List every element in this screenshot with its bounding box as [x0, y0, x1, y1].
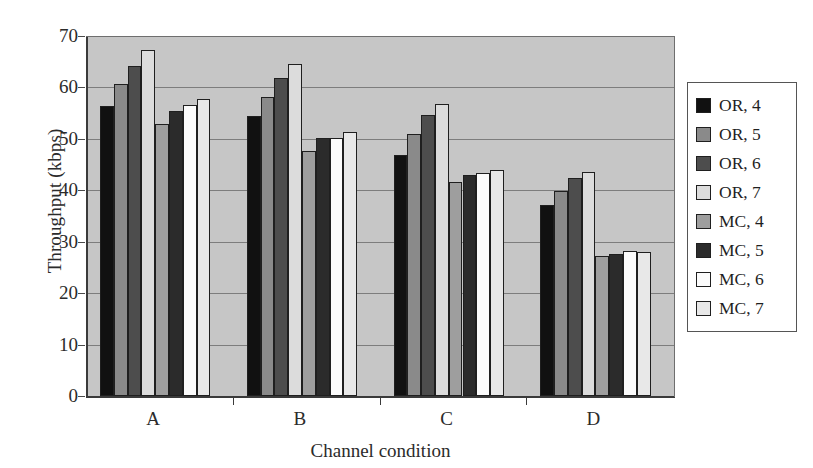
bar-chart-figure: Throughput (kbps) 010203040506070 ABCD C…: [0, 0, 813, 468]
x-tick-mark: [233, 397, 234, 405]
y-tick-mark: [78, 87, 85, 88]
bar: [540, 205, 554, 396]
bar: [449, 182, 463, 396]
legend-label: OR, 5: [719, 124, 761, 145]
bar: [609, 254, 623, 396]
legend-swatch-icon: [696, 127, 711, 142]
bar: [316, 138, 330, 396]
legend-item: OR, 6: [696, 149, 790, 178]
legend-item: MC, 4: [696, 207, 790, 236]
bar: [421, 115, 435, 396]
bar: [100, 106, 114, 396]
bar: [114, 84, 128, 396]
bar: [582, 172, 596, 396]
y-tick-label: 10: [36, 334, 78, 356]
x-group-label-d: D: [563, 408, 623, 430]
y-tick-mark: [78, 139, 85, 140]
bar: [128, 66, 142, 396]
x-tick-mark: [380, 397, 381, 405]
legend-label: MC, 4: [719, 211, 764, 232]
gridline: [88, 87, 675, 88]
y-tick-label: 40: [36, 179, 78, 201]
bar: [330, 138, 344, 396]
legend-swatch-icon: [696, 301, 711, 316]
legend-swatch-icon: [696, 98, 711, 113]
x-axis-title: Channel condition: [86, 440, 675, 462]
bar: [463, 175, 477, 396]
bar: [169, 111, 183, 396]
legend-label: OR, 7: [719, 182, 761, 203]
y-tick-mark: [78, 293, 85, 294]
plot-area: [86, 36, 675, 398]
legend-item: MC, 5: [696, 236, 790, 265]
bar: [435, 104, 449, 396]
y-tick-label: 50: [36, 128, 78, 150]
bar: [302, 151, 316, 396]
legend-item: OR, 5: [696, 120, 790, 149]
legend-item: OR, 7: [696, 178, 790, 207]
plot-frame-top: [86, 36, 675, 37]
legend-swatch-icon: [696, 156, 711, 171]
bar: [476, 173, 490, 396]
legend-label: OR, 6: [719, 153, 761, 174]
bar: [490, 170, 504, 396]
bar: [637, 252, 651, 397]
bar: [394, 155, 408, 396]
legend-label: MC, 5: [719, 240, 764, 261]
bar: [343, 132, 357, 396]
y-tick-label: 60: [36, 76, 78, 98]
y-tick-mark: [78, 36, 85, 37]
x-tick-mark: [526, 397, 527, 405]
y-tick-label: 30: [36, 231, 78, 253]
bar: [623, 251, 637, 396]
bar: [274, 78, 288, 396]
y-tick-label: 70: [36, 25, 78, 47]
legend-swatch-icon: [696, 185, 711, 200]
y-tick-label: 0: [36, 385, 78, 407]
y-tick-mark: [78, 396, 85, 397]
legend: OR, 4OR, 5OR, 6OR, 7MC, 4MC, 5MC, 6MC, 7: [687, 82, 797, 332]
bar: [247, 116, 261, 396]
y-tick-mark: [78, 190, 85, 191]
bar: [568, 178, 582, 396]
legend-label: OR, 4: [719, 95, 761, 116]
y-tick-label: 20: [36, 282, 78, 304]
bar: [141, 50, 155, 396]
legend-item: MC, 6: [696, 265, 790, 294]
bar: [595, 256, 609, 396]
x-group-label-b: B: [270, 408, 330, 430]
y-axis-ticks: 010203040506070: [30, 0, 78, 468]
bar: [155, 124, 169, 396]
x-group-label-c: C: [417, 408, 477, 430]
bar: [554, 191, 568, 396]
legend-swatch-icon: [696, 214, 711, 229]
legend-item: OR, 4: [696, 91, 790, 120]
y-tick-mark: [78, 242, 85, 243]
legend-swatch-icon: [696, 243, 711, 258]
y-tick-mark: [78, 345, 85, 346]
legend-swatch-icon: [696, 272, 711, 287]
bar: [288, 64, 302, 396]
plot-frame-right: [674, 36, 675, 397]
x-group-label-a: A: [123, 408, 183, 430]
bar: [261, 97, 275, 396]
bar: [197, 99, 211, 396]
bar: [183, 105, 197, 396]
legend-label: MC, 7: [719, 298, 764, 319]
legend-label: MC, 6: [719, 269, 764, 290]
bar: [407, 134, 421, 396]
legend-item: MC, 7: [696, 294, 790, 323]
